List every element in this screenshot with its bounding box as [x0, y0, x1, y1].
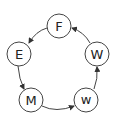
edge-f-to-e	[29, 28, 47, 43]
node-f-label: F	[55, 19, 62, 34]
node-e-label: E	[15, 47, 23, 62]
cycle-diagram: F E M w W	[0, 0, 117, 129]
node-w-upper-label: W	[91, 47, 104, 62]
edge-W-to-f	[72, 28, 90, 43]
node-m-label: M	[25, 93, 36, 108]
node-f: F	[47, 14, 71, 38]
edge-e-to-m	[18, 66, 24, 89]
node-e: E	[7, 42, 31, 66]
node-w-lower-label: w	[81, 92, 92, 107]
node-w-lower: w	[74, 88, 98, 112]
node-m: M	[19, 88, 43, 112]
edge-w-to-W	[94, 67, 97, 89]
node-w-upper: W	[85, 42, 109, 66]
edge-m-to-w	[42, 106, 74, 110]
